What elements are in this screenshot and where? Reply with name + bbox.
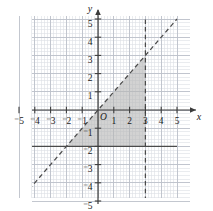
x-axis-label: x xyxy=(196,111,202,122)
x-tick-label: ⁻4 xyxy=(30,116,40,126)
origin-label: O xyxy=(100,112,107,122)
x-tick-label: 5 xyxy=(175,116,180,126)
x-tick-label: ⁻2 xyxy=(62,116,72,126)
y-tick-label: ⁻1 xyxy=(83,128,93,138)
y-tick-label: ⁻2 xyxy=(83,146,93,156)
y-axis-label: y xyxy=(87,3,93,14)
x-tick-label: 2 xyxy=(127,116,132,126)
x-tick-label: ⁻1 xyxy=(77,116,87,126)
graph-canvas: ⁻5⁻4⁻3⁻2⁻112345 54321⁻1⁻2⁻3⁻4⁻5 O x y xyxy=(0,0,213,210)
coordinate-plane-figure: ⁻5⁻4⁻3⁻2⁻112345 54321⁻1⁻2⁻3⁻4⁻5 O x y xyxy=(0,0,213,210)
y-tick-label: 5 xyxy=(88,19,93,29)
y-tick-label: ⁻5 xyxy=(83,201,93,211)
y-tick-label: 2 xyxy=(88,73,93,83)
x-tick-label: ⁻3 xyxy=(46,116,56,126)
y-tick-label: ⁻3 xyxy=(83,164,93,174)
x-tick-label: ⁻5 xyxy=(14,116,24,126)
x-tick-label: 4 xyxy=(159,116,164,126)
x-tick-label: 1 xyxy=(111,116,116,126)
y-tick-label: 4 xyxy=(88,37,93,47)
y-tick-label: 3 xyxy=(88,55,93,65)
y-tick-label: ⁻4 xyxy=(83,182,93,192)
x-tick-label: 3 xyxy=(143,116,148,126)
y-tick-label: 1 xyxy=(88,91,93,101)
